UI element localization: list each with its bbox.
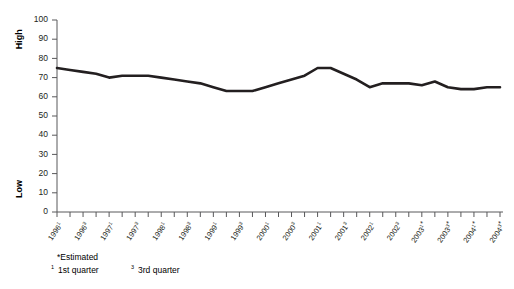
- chart-container: 1009080706050403020100 19961199631997119…: [0, 0, 514, 289]
- footnote-q1-label: 1st quarter: [58, 265, 99, 275]
- footnote-estimated: *Estimated: [57, 252, 98, 262]
- y-tick-label: 70: [39, 72, 49, 82]
- y-tick-label: 40: [39, 129, 49, 139]
- footnote-q3-superscript: 3: [131, 264, 134, 270]
- svg-text:Low: Low: [14, 179, 24, 198]
- axis-annotation-high: High: [14, 29, 24, 49]
- y-tick-label: 0: [43, 206, 48, 216]
- y-tick-label: 100: [34, 14, 48, 24]
- svg-text:High: High: [14, 29, 24, 49]
- chart-background: [0, 0, 514, 289]
- axis-annotation-low: Low: [14, 179, 24, 198]
- y-tick-label: 30: [39, 149, 49, 159]
- footnote-q3-label: 3rd quarter: [138, 265, 180, 275]
- y-tick-label: 80: [39, 53, 49, 63]
- footnote-q1: 11st quarter: [51, 264, 99, 275]
- footnote-q1-superscript: 1: [51, 264, 54, 270]
- y-tick-label: 90: [39, 33, 49, 43]
- y-tick-label: 20: [39, 168, 49, 178]
- line-chart: 1009080706050403020100 19961199631997119…: [0, 0, 514, 289]
- y-tick-label: 10: [39, 187, 49, 197]
- y-tick-label: 50: [39, 110, 49, 120]
- y-tick-label: 60: [39, 91, 49, 101]
- footnote-q3: 33rd quarter: [131, 264, 180, 275]
